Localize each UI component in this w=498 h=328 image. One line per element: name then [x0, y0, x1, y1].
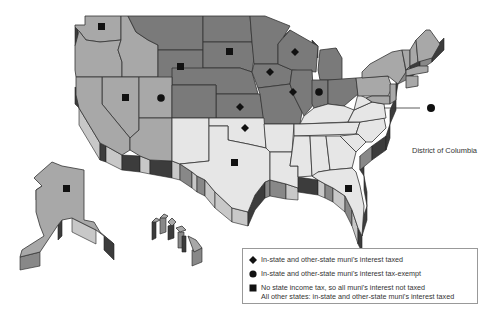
legend-label: No state income tax, so all muni's inter…: [261, 283, 454, 292]
marker-nevada-square: [122, 94, 129, 101]
circle-icon: [249, 269, 257, 278]
legend-item-diamond: In-state and other-state muni's interest…: [249, 255, 403, 264]
legend-label: In-state and other-state muni's interest…: [261, 269, 421, 278]
state-new-mexico: [172, 118, 209, 164]
state-alaska: [20, 162, 114, 257]
marker-alaska-square: [63, 185, 70, 192]
marker-florida-square: [345, 185, 352, 192]
marker-indiana-circle: [315, 88, 323, 96]
marker-washington-square: [98, 23, 105, 30]
square-icon: [249, 283, 257, 292]
state-utah: [139, 77, 172, 118]
state-ohio: [328, 78, 358, 106]
state-tennessee: [294, 122, 360, 136]
legend-label: In-state and other-state muni's interest…: [261, 255, 403, 264]
marker-utah-circle: [157, 94, 165, 102]
state-connecticut: [406, 76, 418, 88]
state-colorado: [172, 85, 216, 118]
marker-wyoming-square: [177, 63, 184, 70]
legend-item-square: No state income tax, so all muni's inter…: [249, 283, 454, 301]
legend: In-state and other-state muni's interest…: [242, 248, 478, 304]
marker-dc-circle: [427, 104, 435, 112]
diamond-icon: [249, 255, 257, 264]
marker-south-dakota-square: [226, 48, 233, 55]
state-pennsylvania: [356, 76, 392, 96]
state-virginia: [348, 102, 386, 122]
legend-item-circle: In-state and other-state muni's interest…: [249, 269, 421, 278]
state-michigan: [318, 48, 342, 80]
dc-label: District of Columbia: [412, 146, 477, 155]
marker-texas-square: [231, 159, 238, 166]
state-north-dakota: [203, 16, 252, 42]
state-arkansas: [264, 124, 294, 152]
state-new-jersey: [390, 84, 396, 104]
legend-note: All other states: in-state and other-sta…: [261, 292, 454, 301]
state-south-dakota: [203, 42, 254, 72]
state-hawaii: [152, 214, 202, 266]
